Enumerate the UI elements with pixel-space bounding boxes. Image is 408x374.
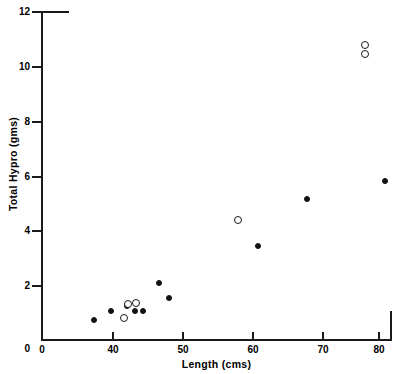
data-point-open: [124, 300, 132, 308]
data-point-filled: [304, 196, 310, 202]
data-point-filled: [156, 280, 162, 286]
data-points-layer: [0, 0, 408, 374]
data-point-filled: [166, 295, 172, 301]
data-point-open: [361, 41, 369, 49]
data-point-filled: [382, 178, 388, 184]
data-point-open: [361, 50, 369, 58]
data-point-filled: [91, 317, 97, 323]
data-point-open: [120, 314, 128, 322]
data-point-filled: [132, 308, 138, 314]
data-point-open: [234, 216, 242, 224]
data-point-filled: [255, 243, 261, 249]
data-point-filled: [140, 308, 146, 314]
data-point-filled: [108, 308, 114, 314]
data-point-open: [132, 299, 140, 307]
scatter-plot-figure: 12 10 8 6 4 2 0 0 40 50 60 70 80 Total H…: [0, 0, 408, 374]
